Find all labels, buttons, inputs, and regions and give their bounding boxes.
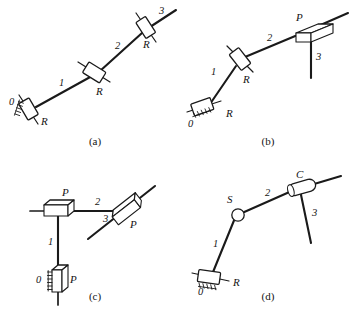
panel-c-ground-side-face: [62, 265, 68, 292]
panel-c-distal-joint-P: [109, 193, 144, 225]
panel-a-link-label-1: 1: [59, 77, 64, 88]
panel-d-middle-joint-S: [232, 209, 244, 221]
panel-c-joint-label-P-distal: P: [129, 218, 137, 230]
panel-c-middle-joint-P: [44, 200, 74, 216]
panel-b-slider-front-face: [296, 33, 311, 42]
panel-c-middle-front-face: [44, 205, 68, 216]
panel-b-link-2-line: [245, 34, 300, 57]
panel-d-link-label-1: 1: [213, 238, 218, 249]
diagram-canvas: 0 R 1 R 2 R 3 (a): [0, 0, 355, 318]
panel-c-link-label-1: 1: [48, 236, 53, 247]
panel-b-link-label-1: 1: [211, 66, 216, 77]
panel-c-link-label-2: 2: [95, 196, 101, 207]
panel-a-link-label-3: 3: [158, 5, 164, 16]
panel-d-sphere-body: [232, 209, 244, 221]
panel-a-link-2-line: [100, 33, 142, 71]
panel-d-link-label-3: 3: [311, 207, 317, 218]
panel-a-joint-label-R-middle: R: [95, 85, 103, 97]
panel-b-caption: (b): [262, 135, 275, 148]
figure-sheet: 0 R 1 R 2 R 3 (a): [0, 0, 355, 318]
panel-d-link-label-2: 2: [265, 187, 271, 198]
panel-a-ground-label: 0: [9, 96, 15, 107]
panel-b-ground-joint-R: [187, 97, 221, 117]
panel-b-ground-label: 0: [188, 118, 194, 129]
panel-d-cylinder-group: [286, 178, 317, 197]
panel-a-joint-label-R-distal: R: [142, 38, 150, 50]
panel-c-link-label-3: 3: [102, 213, 108, 224]
panel-c-caption: (c): [89, 290, 102, 303]
panel-c-joint-label-P-middle: P: [61, 186, 69, 198]
panel-a-caption: (a): [89, 135, 102, 148]
panel-c-joint-label-P-ground: P: [69, 273, 77, 285]
panel-d-joint-label-S-middle: S: [227, 193, 233, 205]
panel-b-distal-joint-P: [296, 24, 333, 42]
panel-b-joint-label-R-ground: R: [225, 107, 233, 119]
panel-b-joint-label-P-distal: P: [295, 11, 303, 23]
panel-b-link-label-2: 2: [267, 32, 273, 43]
panel-a-ground-joint-R: [15, 95, 39, 124]
panel-b: 0 R 1 R 2 P 3 (b): [187, 11, 348, 148]
panel-b-link-label-3: 3: [315, 51, 321, 62]
panel-a-joint-label-R-ground: R: [40, 115, 48, 127]
panel-c: P 2 1 0 P 3 P (c): [30, 186, 155, 305]
panel-d-link-3-line: [300, 190, 311, 243]
panel-d-joint-label-C-distal: C: [296, 168, 304, 180]
panel-a-link-label-2: 2: [115, 40, 121, 51]
panel-d-ground-label: 0: [198, 286, 204, 297]
panel-b-middle-joint-R: [227, 46, 253, 72]
panel-d-distal-joint-C: [286, 178, 317, 197]
panel-b-joint-label-R-middle: R: [242, 73, 250, 85]
panel-c-ground-front-face: [52, 270, 62, 292]
panel-c-ground-label: 0: [36, 274, 42, 285]
panel-d-joint-label-R-ground: R: [232, 276, 240, 288]
panel-c-ground-hatching: [48, 271, 53, 291]
panel-c-distal-block: [109, 193, 144, 225]
panel-d-ground-joint-body: [197, 270, 220, 285]
panel-c-ground-joint-P: [48, 265, 69, 292]
panel-d-caption: (d): [262, 290, 275, 303]
panel-a: 0 R 1 R 2 R 3 (a): [9, 5, 176, 148]
panel-d: 0 R 1 S 2 C 3 (d): [192, 168, 341, 303]
